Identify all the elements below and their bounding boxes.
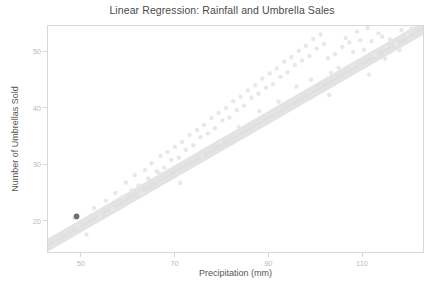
scatter-point — [173, 145, 177, 149]
scatter-point — [120, 195, 124, 199]
scatter-point — [198, 135, 202, 139]
scatter-point — [260, 76, 264, 80]
scatter-point — [309, 77, 313, 81]
scatter-point — [224, 106, 228, 110]
x-tick-label: 70 — [170, 259, 178, 268]
scatter-point — [253, 83, 257, 87]
scatter-point — [162, 166, 166, 170]
scatter-point — [187, 133, 191, 137]
scatter-point — [343, 36, 347, 40]
scatter-point — [113, 190, 117, 194]
scatter-point — [351, 50, 355, 54]
highlighted-scatter-point — [74, 214, 80, 220]
scatter-point — [242, 103, 246, 107]
scatter-point — [336, 66, 340, 70]
x-tick-mark — [174, 253, 175, 257]
scatter-point — [84, 232, 88, 236]
scatter-point — [206, 131, 210, 135]
scatter-point — [365, 26, 369, 30]
chart-title: Linear Regression: Rainfall and Umbrella… — [0, 4, 444, 16]
scatter-point — [139, 191, 143, 195]
scatter-point — [184, 148, 188, 152]
scatter-point — [380, 35, 384, 39]
scatter-point — [340, 45, 344, 49]
scatter-point — [92, 206, 96, 210]
y-tick-mark — [43, 220, 47, 221]
scatter-point — [146, 176, 150, 180]
scatter-point — [409, 27, 413, 31]
scatter-point — [169, 158, 173, 162]
scatter-point — [294, 84, 298, 88]
scatter-point — [384, 44, 388, 48]
scatter-point — [98, 214, 102, 218]
scatter-point — [202, 123, 206, 127]
scatter-point — [209, 116, 213, 120]
scatter-point — [327, 93, 331, 97]
scatter-point — [76, 224, 80, 228]
scatter-point — [282, 59, 286, 63]
scatter-point — [285, 70, 289, 74]
scatter-point — [293, 63, 297, 67]
scatter-point — [275, 66, 279, 70]
scatter-point — [399, 28, 403, 32]
scatter-point — [178, 181, 182, 185]
x-tick-label: 90 — [264, 259, 272, 268]
y-tick-mark — [43, 51, 47, 52]
scatter-point — [238, 94, 242, 98]
y-tick-label: 20 — [33, 216, 41, 225]
scatter-point — [216, 111, 220, 115]
scatter-point — [195, 128, 199, 132]
scatter-point — [278, 75, 282, 79]
scatter-point — [103, 198, 107, 202]
scatter-point — [227, 115, 231, 119]
scatter-point — [322, 42, 326, 46]
scatter-point — [110, 207, 114, 211]
scatter-point — [268, 71, 272, 75]
scatter-point — [367, 72, 371, 76]
scatter-point — [256, 92, 260, 96]
scatter-point — [405, 33, 409, 37]
y-tick-label: 40 — [33, 103, 41, 112]
scatter-point — [350, 64, 354, 68]
scatter-point — [143, 168, 147, 172]
x-tick-mark — [362, 253, 363, 257]
x-axis-label: Precipitation (mm) — [47, 268, 424, 278]
y-tick-label: 30 — [33, 160, 41, 169]
scatter-point — [373, 53, 377, 57]
scatter-point — [326, 56, 330, 60]
scatter-point — [177, 155, 181, 159]
scatter-point — [219, 140, 223, 144]
scatter-point — [264, 85, 268, 89]
x-tick-mark — [268, 253, 269, 257]
scatter-point — [129, 188, 133, 192]
scatter-point — [300, 58, 304, 62]
scatter-point — [369, 39, 373, 43]
scatter-point — [307, 54, 311, 58]
scatter-point — [355, 29, 359, 33]
scatter-point — [329, 71, 333, 75]
plot-canvas — [48, 26, 423, 252]
scatter-point — [276, 100, 280, 104]
regression-confidence-band — [48, 26, 423, 251]
y-tick-mark — [43, 107, 47, 108]
scatter-point — [383, 57, 387, 61]
scatter-point — [297, 49, 301, 53]
scatter-point — [133, 173, 137, 177]
scatter-point — [200, 155, 204, 159]
scatter-point — [388, 37, 392, 41]
scatter-point — [136, 183, 140, 187]
x-tick-label: 110 — [356, 259, 368, 268]
scatter-point — [362, 48, 366, 52]
scatter-point — [149, 161, 153, 165]
scatter-point — [358, 38, 362, 42]
scatter-point — [157, 171, 161, 175]
scatter-point — [271, 82, 275, 86]
scatter-point — [347, 40, 351, 44]
y-axis-label: Number of Umbrellas Sold — [10, 39, 20, 239]
y-tick-label: 50 — [33, 47, 41, 56]
scatter-point — [220, 118, 224, 122]
scatter-point — [213, 126, 217, 130]
scatter-point — [318, 32, 322, 36]
scatter-point — [333, 52, 337, 56]
scatter-point — [257, 109, 261, 113]
